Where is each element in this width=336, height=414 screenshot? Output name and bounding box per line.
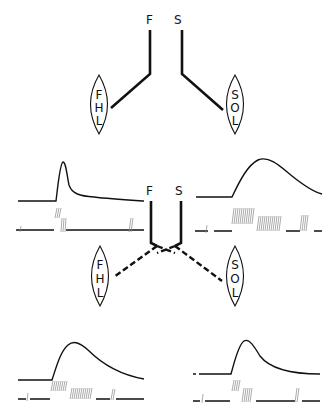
trace-upper-left (16, 162, 144, 232)
dashed-nerve-to-sol (175, 246, 222, 281)
nerve-label-fast-top: F (146, 13, 153, 27)
svg-text:F: F (96, 88, 103, 102)
top-section: F S F H L S O L (91, 13, 244, 134)
muscle-fhl-top: F H L (91, 75, 108, 134)
svg-text:S: S (231, 88, 239, 102)
middle-section: F S F H L S O L (92, 184, 244, 306)
svg-text:H: H (94, 101, 103, 115)
nerve-label-slow-middle: S (175, 184, 183, 198)
fast-nerve-top (111, 30, 150, 108)
nerve-label-fast-middle: F (146, 184, 153, 198)
svg-text:F: F (97, 258, 104, 272)
dashed-nerve-to-fhl (114, 246, 157, 277)
svg-text:L: L (232, 286, 239, 300)
trace-lower-left (18, 343, 144, 401)
fast-nerve-middle (151, 201, 157, 246)
svg-text:S: S (231, 258, 239, 272)
trace-lower-right (193, 340, 320, 403)
slow-nerve-middle (175, 201, 181, 246)
svg-text:L: L (96, 114, 103, 128)
svg-text:H: H (95, 272, 104, 286)
cross-innervation-diagram: F S F H L S O L (0, 0, 336, 414)
nerve-label-slow-top: S (174, 13, 182, 27)
slow-nerve-top (182, 30, 223, 110)
muscle-sol-middle: S O L (227, 246, 244, 306)
svg-text:L: L (232, 114, 239, 128)
svg-text:O: O (230, 272, 239, 286)
svg-text:L: L (97, 286, 104, 300)
muscle-sol-top: S O L (227, 75, 244, 134)
muscle-fhl-middle: F H L (92, 246, 109, 306)
svg-text:O: O (230, 101, 239, 115)
trace-upper-right (195, 159, 322, 233)
